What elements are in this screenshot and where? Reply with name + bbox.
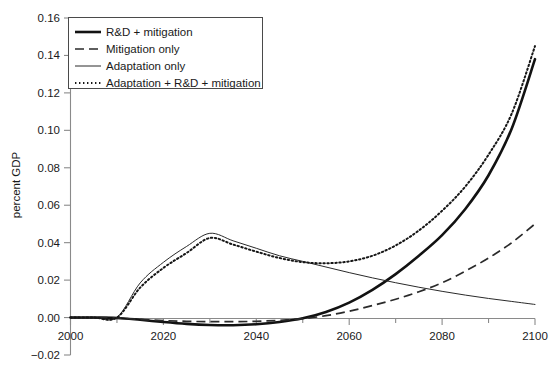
x-tick-label: 2020 xyxy=(151,330,177,342)
series-line-1 xyxy=(71,224,536,322)
series-line-2 xyxy=(71,233,536,320)
y-tick-label: 0.16 xyxy=(38,12,60,24)
legend-label-1: Mitigation only xyxy=(106,43,180,55)
chart-legend: R&D + mitigationMitigation onlyAdaptatio… xyxy=(69,18,263,90)
y-tick-label: 0.00 xyxy=(38,312,60,324)
y-tick-group: −0.020.000.020.040.060.080.100.120.140.1… xyxy=(31,12,71,361)
y-tick-label: 0.10 xyxy=(38,124,60,136)
y-tick-label: 0.04 xyxy=(38,237,61,249)
legend-label-2: Adaptation only xyxy=(106,60,186,72)
y-tick-label: 0.12 xyxy=(38,87,60,99)
x-tick-group: 200020202040206020802100 xyxy=(58,319,548,343)
legend-label-0: R&D + mitigation xyxy=(106,26,193,38)
y-tick-label: 0.06 xyxy=(38,199,60,211)
y-tick-label: 0.08 xyxy=(38,162,60,174)
y-tick-label: 0.14 xyxy=(38,49,61,61)
y-axis: −0.020.000.020.040.060.080.100.120.140.1… xyxy=(10,12,71,361)
x-tick-label: 2040 xyxy=(244,330,270,342)
line-chart: −0.020.000.020.040.060.080.100.120.140.1… xyxy=(0,0,549,380)
x-tick-label: 2060 xyxy=(336,330,362,342)
x-tick-label: 2100 xyxy=(522,330,548,342)
x-tick-label: 2080 xyxy=(429,330,455,342)
y-axis-title: percent GDP xyxy=(10,151,22,218)
chart-figure: −0.020.000.020.040.060.080.100.120.140.1… xyxy=(0,0,549,380)
legend-label-3: Adaptation + R&D + mitigation xyxy=(106,77,261,89)
series-line-0 xyxy=(71,59,536,325)
y-tick-label: 0.02 xyxy=(38,274,60,286)
x-tick-label: 2000 xyxy=(58,330,84,342)
y-tick-label: −0.02 xyxy=(31,349,60,361)
x-axis: 200020202040206020802100 xyxy=(58,319,548,343)
